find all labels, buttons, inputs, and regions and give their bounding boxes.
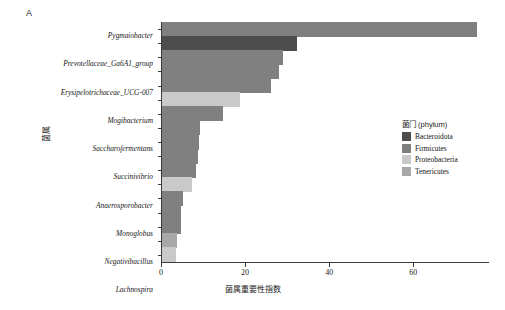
bar-fill — [162, 106, 223, 121]
bar-fill — [162, 36, 297, 51]
y-tick-label: Anaerosporobacter — [96, 202, 153, 209]
panel-letter: A — [26, 8, 32, 18]
bar-fill — [162, 50, 283, 65]
legend-swatch — [402, 144, 411, 153]
bar-fill — [162, 233, 177, 248]
bar — [162, 22, 477, 37]
x-tick-mark — [413, 263, 414, 267]
legend-item-label: Tenericutes — [415, 167, 449, 176]
bar — [162, 64, 279, 79]
y-tick-mark: Defluviitaleaceae_UCG-011 — [158, 198, 161, 199]
y-tick-label: Mogibacterium — [107, 117, 153, 124]
y-tick-mark: Atopostipes — [158, 227, 161, 228]
y-tick-label: Monoglobus — [116, 230, 153, 237]
legend-item[interactable]: Tenericutes — [402, 166, 498, 177]
x-tick-label: 20 — [241, 268, 249, 277]
legend-title: 菌门 (phylum) — [402, 118, 498, 129]
x-tick-label: 0 — [159, 268, 163, 277]
figure-panel-a: A 菌属 PygmaiobacterPrevotellaceae_Ga6A1_g… — [0, 0, 505, 310]
legend-item-label: Proteobacteria — [415, 155, 458, 164]
bar-fill — [162, 64, 279, 79]
y-tick-label: Prevotellaceae_Ga6A1_group — [63, 60, 153, 67]
y-axis-title: 菌属 — [40, 119, 51, 149]
y-tick-mark: Anaeroplasma — [158, 241, 161, 242]
bar-fill — [162, 92, 240, 107]
bar-fill — [162, 78, 271, 93]
y-tick-mark: Negativibacillus — [158, 142, 161, 143]
x-tick-mark — [329, 263, 330, 267]
bar — [162, 163, 196, 178]
x-tick-mark — [161, 263, 162, 267]
bar — [162, 135, 199, 150]
x-tick-label: 40 — [325, 268, 333, 277]
bar-fill — [162, 135, 199, 150]
y-tick-mark: Blautia — [158, 170, 161, 171]
bar — [162, 177, 192, 192]
legend-swatch — [402, 167, 411, 176]
legend-item-label: Firmicutes — [415, 144, 447, 153]
legend-item[interactable]: Bacteroidota — [402, 131, 498, 142]
bar-fill — [162, 191, 183, 206]
bar-fill — [162, 22, 477, 37]
y-tick-mark: Monoglobus — [158, 128, 161, 129]
y-tick-mark: Saccharofermentans — [158, 86, 161, 87]
x-tick-label: 60 — [409, 268, 417, 277]
bar — [162, 106, 223, 121]
y-tick-mark: Anaerosporobacter — [158, 114, 161, 115]
bar — [162, 247, 176, 262]
legend-swatch — [402, 155, 411, 164]
y-tick-label: Negativibacillus — [105, 258, 153, 265]
bar — [162, 233, 177, 248]
y-tick-mark: Mogibacterium — [158, 71, 161, 72]
bar-fill — [162, 163, 196, 178]
y-tick-mark: Mailhella — [158, 184, 161, 185]
legend-item[interactable]: Firmicutes — [402, 143, 498, 154]
x-axis-title: 菌属重要性指数 — [0, 283, 505, 294]
bar — [162, 219, 181, 234]
bar — [162, 191, 183, 206]
legend-item[interactable]: Proteobacteria — [402, 154, 498, 165]
legend-items: BacteroidotaFirmicutesProteobacteriaTene… — [402, 131, 498, 177]
y-tick-mark: Ruminobacter — [158, 255, 161, 256]
bar-fill — [162, 247, 176, 262]
bar — [162, 120, 200, 135]
bar — [162, 36, 297, 51]
legend: 菌门 (phylum) BacteroidotaFirmicutesProteo… — [402, 118, 498, 177]
y-tick-label: Succinivibrio — [114, 173, 153, 180]
bar — [162, 50, 283, 65]
y-tick-mark: Lachnospira — [158, 156, 161, 157]
y-tick-mark: Pygmaiobacter — [158, 29, 161, 30]
bar — [162, 205, 181, 220]
y-tick-label: Erysipelotrichaceae_UCG-007 — [61, 89, 153, 96]
x-axis-line — [161, 262, 489, 263]
y-tick-mark: Succinivibrio — [158, 100, 161, 101]
bar-fill — [162, 120, 200, 135]
y-tick-mark: Erysipelotrichaceae_UCG-007 — [158, 57, 161, 58]
x-tick-mark — [245, 263, 246, 267]
y-tick-mark: Cellulosilyticum — [158, 213, 161, 214]
bar — [162, 149, 198, 164]
bar — [162, 92, 240, 107]
bar-fill — [162, 219, 181, 234]
y-tick-mark: Prevotellaceae_Ga6A1_group — [158, 43, 161, 44]
bar — [162, 78, 271, 93]
legend-item-label: Bacteroidota — [415, 132, 453, 141]
y-tick-label: Saccharofermentans — [93, 145, 153, 152]
bar-fill — [162, 149, 198, 164]
bar-fill — [162, 177, 192, 192]
y-tick-label: Pygmaiobacter — [108, 32, 153, 39]
bar-fill — [162, 205, 181, 220]
legend-swatch — [402, 132, 411, 141]
